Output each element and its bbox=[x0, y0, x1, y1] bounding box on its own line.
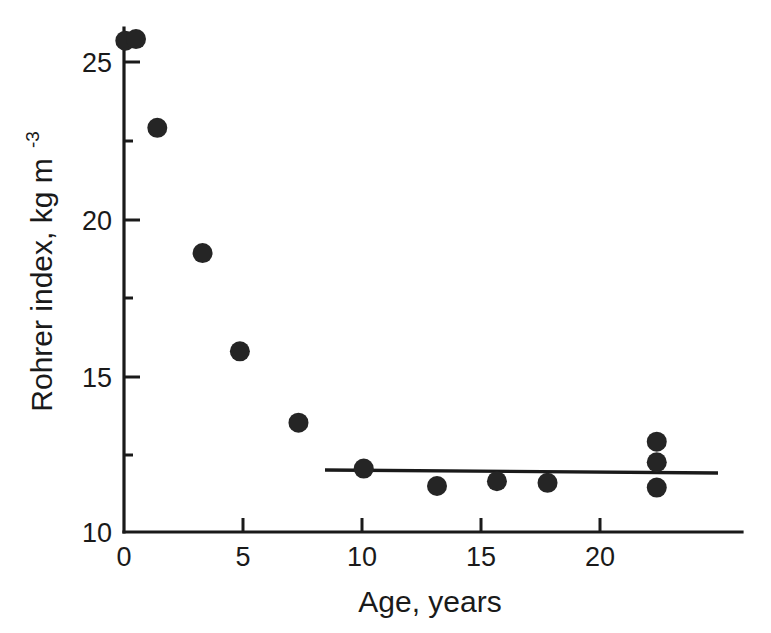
x-tick-label-15: 15 bbox=[466, 542, 496, 572]
y-tick-label-15: 15 bbox=[82, 363, 112, 393]
data-point bbox=[647, 478, 667, 498]
data-point bbox=[126, 29, 146, 49]
x-tick-label-5: 5 bbox=[235, 542, 250, 572]
x-axis-ticks bbox=[243, 518, 600, 532]
data-point bbox=[354, 459, 374, 479]
data-point bbox=[538, 473, 558, 493]
y-tick-label-25: 25 bbox=[82, 48, 112, 78]
y-axis-ticks bbox=[124, 62, 140, 455]
data-point bbox=[193, 243, 213, 263]
data-points-layer bbox=[115, 29, 666, 498]
x-axis-title: Age, years bbox=[358, 585, 501, 618]
data-point bbox=[288, 413, 308, 433]
data-point bbox=[647, 452, 667, 472]
x-tick-label-10: 10 bbox=[347, 542, 377, 572]
y-axis-title-exponent: -3 bbox=[22, 131, 43, 148]
data-point bbox=[427, 476, 447, 496]
x-tick-label-0: 0 bbox=[116, 542, 131, 572]
data-point bbox=[647, 432, 667, 452]
figure-container: 25 20 15 10 0 5 10 15 20 Age, years Rohr… bbox=[0, 0, 771, 633]
data-point bbox=[147, 118, 167, 138]
y-axis-title-group: Rohrer index, kg m -3 bbox=[22, 131, 58, 412]
y-tick-label-10: 10 bbox=[82, 518, 112, 548]
data-point bbox=[230, 341, 250, 361]
y-axis-title: Rohrer index, kg m bbox=[25, 158, 58, 411]
scatter-plot: 25 20 15 10 0 5 10 15 20 Age, years Rohr… bbox=[0, 0, 771, 633]
y-tick-label-20: 20 bbox=[82, 206, 112, 236]
x-tick-label-20: 20 bbox=[585, 542, 615, 572]
data-point bbox=[487, 471, 507, 491]
